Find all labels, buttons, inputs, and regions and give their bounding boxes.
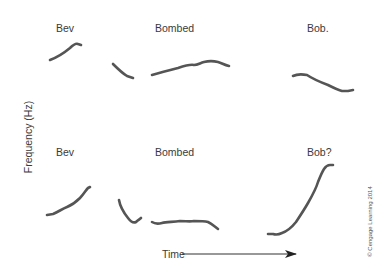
question-contour-bob: [268, 165, 333, 235]
statement-contour-bev: [50, 44, 81, 60]
question-contour-bombed-onset: [119, 200, 141, 222]
question-contour-bombed-vowel: [152, 221, 218, 229]
statement-contour-bombed-vowel: [152, 61, 229, 75]
statement-contour-bombed-onset: [113, 64, 133, 78]
intonation-diagram: Frequency (Hz) Bev Bombed Bob. Bev Bombe…: [0, 0, 388, 276]
question-contour-bev: [47, 187, 90, 215]
statement-contour-bob: [293, 74, 353, 91]
pitch-contours: [0, 0, 388, 276]
